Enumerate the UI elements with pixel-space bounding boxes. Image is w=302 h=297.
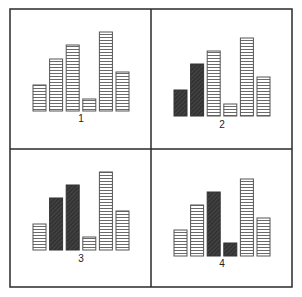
bar <box>257 218 270 256</box>
bar-highlighted <box>224 243 237 256</box>
bar-chart-panel-3: 3 <box>33 172 129 264</box>
panel-label: 3 <box>78 253 84 264</box>
bar <box>174 230 187 256</box>
bar <box>240 179 253 256</box>
bar <box>257 77 270 116</box>
bar <box>33 85 46 111</box>
bar <box>116 211 129 250</box>
bar-chart-panel-1: 1 <box>33 32 129 124</box>
bar <box>66 45 79 111</box>
bar <box>99 32 112 111</box>
bar-highlighted <box>207 192 220 256</box>
bar-chart-grid-figure: 1234 <box>0 0 302 297</box>
bar-chart-panel-2: 2 <box>174 38 270 130</box>
bar <box>240 38 253 116</box>
bar <box>224 104 237 116</box>
panel-label: 2 <box>219 119 225 130</box>
figure-canvas: 1234 <box>0 0 302 297</box>
bar-highlighted <box>50 198 63 250</box>
bar <box>83 99 96 111</box>
bar <box>33 224 46 250</box>
bar <box>83 237 96 250</box>
bar <box>207 51 220 116</box>
panel-label: 1 <box>78 113 84 124</box>
bar-highlighted <box>66 185 79 250</box>
panel-label: 4 <box>219 258 225 269</box>
bar-highlighted <box>174 90 187 116</box>
bar <box>116 72 129 111</box>
bar-chart-panel-4: 4 <box>174 179 270 269</box>
bar <box>99 172 112 250</box>
bar <box>50 59 63 111</box>
bar-highlighted <box>191 64 204 116</box>
bar <box>191 205 204 256</box>
